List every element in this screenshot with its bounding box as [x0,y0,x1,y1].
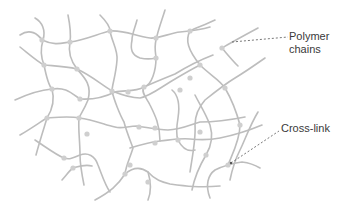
cross-link-node [152,140,157,145]
cross-link-node [197,62,202,67]
cross-link-node [237,122,242,127]
polymer-chain [155,10,165,58]
cross-link-node [187,28,192,33]
cross-link-node [197,129,202,134]
cross-link-node [44,115,49,120]
polymer-chain [95,168,220,200]
cross-link-node [74,66,79,71]
cross-link-node [203,152,208,157]
cross-link-label: Cross-link [281,122,330,135]
polymer-chains [15,10,265,200]
polymer-chains-label: Polymer chains [289,30,329,56]
cross-link-node [127,162,132,167]
cross-link-node [152,125,157,130]
cross-link-node [219,45,224,50]
cross-link-node [177,87,182,92]
cross-link-node [49,86,54,91]
cross-link-node [145,179,150,184]
cross-link-node [70,165,75,170]
cross-link-node [61,155,66,160]
cross-link-node [187,75,192,80]
cross-link-node [67,39,72,44]
polymer-chain [190,58,265,172]
cross-link-node [107,28,112,33]
cross-link-node [153,55,158,60]
cross-link-node [39,37,44,42]
cross-link-node [125,89,130,94]
polymer-chain [62,165,92,180]
cross-link-node [77,96,82,101]
cross-link-node [122,171,127,176]
polymer-chain [222,28,258,66]
cross-link-node [222,85,227,90]
cross-link-node [84,131,89,136]
polymer-chain [172,90,195,151]
polymer-chain [20,27,210,44]
cross-link-node [76,115,81,120]
cross-link-node [153,35,158,40]
cross-link-node [136,124,141,129]
polymer-chain [148,172,150,200]
polymer-chains-label-line2: chains [289,43,329,56]
polymer-chains-label-line1: Polymer [289,30,329,43]
cross-link-node [175,137,180,142]
cross-link-node [141,84,146,89]
cross-link-node [109,88,114,93]
cross-link-node [41,62,46,67]
polymer-chain [230,112,258,180]
leader-lines [230,37,288,164]
